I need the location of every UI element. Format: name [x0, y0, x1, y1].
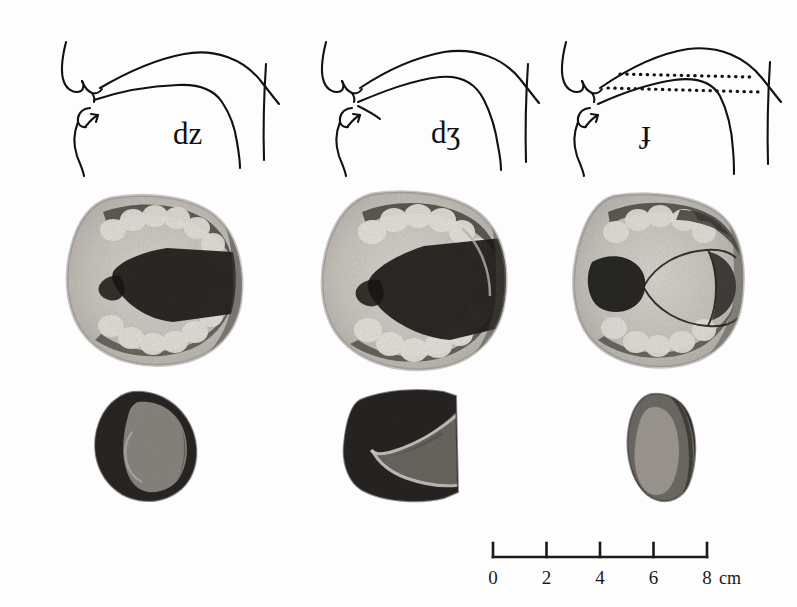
linguogram-dz [88, 388, 218, 506]
linguogram-barred-j [615, 392, 715, 506]
scale-unit-label: cm [719, 569, 741, 587]
ipa-label-dezh: dʒ [431, 117, 460, 148]
sagittal-diagram-barred-j: ɟ [548, 22, 797, 192]
phonetics-figure-plate: dz dʒ [0, 0, 797, 607]
scale-tick-label-0: 0 [488, 568, 498, 587]
scale-bar-rule [493, 543, 707, 557]
palatogram-dz [55, 190, 255, 370]
scale-tick-label-6: 6 [649, 568, 659, 587]
scale-tick-label-4: 4 [595, 568, 605, 587]
sagittal-diagram-dezh: dʒ [308, 22, 558, 192]
palatogram-barred-j [560, 190, 755, 370]
palatogram-dezh [310, 188, 520, 374]
ipa-label-dz: dz [173, 118, 202, 149]
scale-tick-label-2: 2 [542, 568, 552, 587]
sagittal-diagram-dz: dz [48, 22, 298, 192]
linguogram-dezh [340, 388, 480, 506]
scale-tick-label-8: 8 [702, 568, 712, 587]
scale-bar: 0 2 4 6 8 cm [485, 538, 725, 588]
ipa-label-barred-j: ɟ [641, 116, 651, 147]
